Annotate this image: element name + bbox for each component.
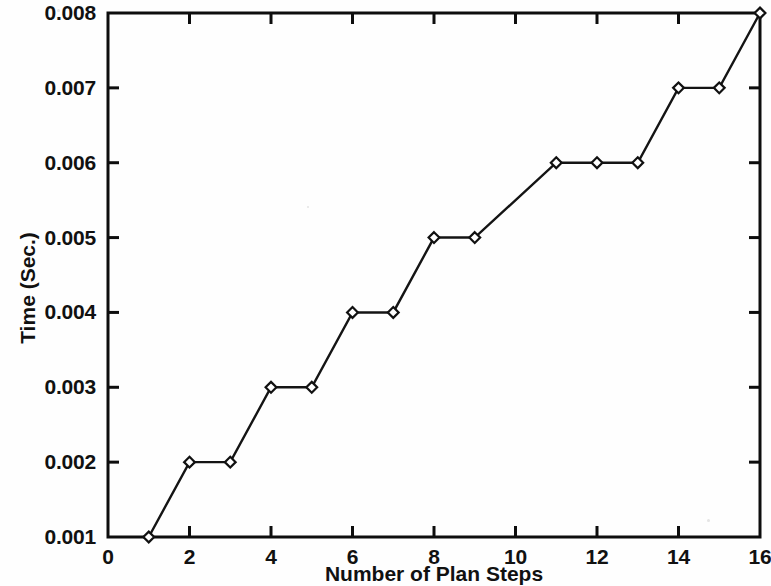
y-tick-label: 0.001 xyxy=(44,525,96,549)
data-point-markers xyxy=(143,8,765,543)
y-tick-label: 0.004 xyxy=(44,300,96,324)
y-tick-label: 0.007 xyxy=(44,76,96,100)
y-tick-label: 0.002 xyxy=(44,450,96,474)
y-axis-title: Time (Sec.) xyxy=(16,198,40,378)
scan-speck xyxy=(307,206,309,208)
data-series-line xyxy=(149,13,760,537)
y-tick-label: 0.003 xyxy=(44,375,96,399)
axes-frame xyxy=(108,13,760,537)
y-tick-label: 0.006 xyxy=(44,151,96,175)
y-tick-label: 0.005 xyxy=(44,226,96,250)
y-tick-label: 0.008 xyxy=(44,1,96,25)
scan-speck xyxy=(707,519,710,522)
scan-speck xyxy=(57,9,60,12)
tick-marks xyxy=(108,13,760,537)
x-axis-title: Number of Plan Steps xyxy=(108,562,760,586)
